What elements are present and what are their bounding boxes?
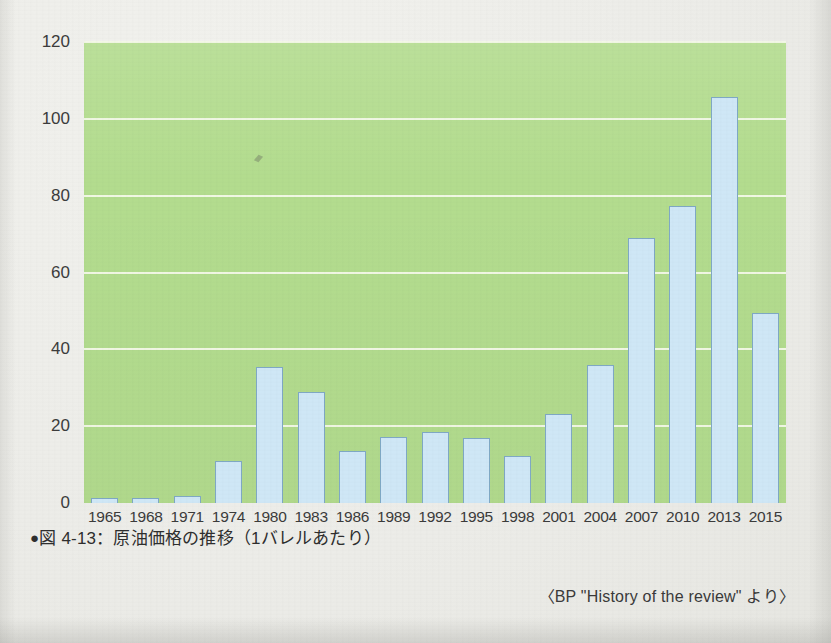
x-axis-tick-label: 1992 — [418, 508, 451, 526]
y-axis-tick-label: 40 — [0, 339, 70, 359]
x-axis-tick-label: 1989 — [377, 508, 410, 526]
x-axis-tick-label: 2015 — [749, 508, 782, 526]
source-note: 〈BP "History of the review" より〉 — [539, 583, 795, 607]
bar — [215, 461, 242, 503]
bar — [504, 456, 531, 503]
scan-speck — [254, 155, 263, 163]
y-axis-tick-label: 0 — [0, 493, 70, 513]
figure-caption: ●図 4-13：原油価格の推移（1バレルあたり） — [30, 524, 381, 549]
chart-plot-area — [84, 42, 786, 503]
bar — [132, 498, 159, 503]
bar — [91, 498, 118, 503]
caption-bullet-icon: ● — [30, 529, 39, 546]
bar — [256, 367, 283, 503]
bar — [463, 438, 490, 503]
y-axis-tick-label: 20 — [0, 416, 70, 436]
y-axis-tick-label: 120 — [0, 32, 70, 52]
y-axis-tick-label: 80 — [0, 186, 70, 206]
gridline — [84, 118, 786, 120]
figure-page: 020406080100120 196519681971197419801983… — [0, 0, 831, 643]
x-axis-tick-label: 2001 — [542, 508, 575, 526]
x-axis-tick-label: 1998 — [501, 508, 534, 526]
y-axis-tick-label: 100 — [0, 109, 70, 129]
bar — [339, 451, 366, 503]
x-axis-tick-label: 2010 — [666, 508, 699, 526]
bar — [545, 414, 572, 503]
bar — [174, 496, 201, 503]
y-axis-tick-label: 60 — [0, 263, 70, 283]
bar — [669, 206, 696, 503]
bar — [422, 432, 449, 503]
x-axis-tick-label: 2013 — [707, 508, 740, 526]
bar — [752, 313, 779, 503]
bar — [628, 238, 655, 503]
bar — [298, 392, 325, 503]
bar — [711, 97, 738, 503]
gridline — [84, 195, 786, 197]
x-axis-tick-label: 2004 — [584, 508, 617, 526]
caption-text: 図 4-13：原油価格の推移（1バレルあたり） — [39, 529, 381, 548]
bar — [587, 365, 614, 503]
x-axis-tick-label: 2007 — [625, 508, 658, 526]
bar — [380, 437, 407, 503]
gridline — [84, 41, 786, 43]
x-axis-tick-label: 1995 — [460, 508, 493, 526]
